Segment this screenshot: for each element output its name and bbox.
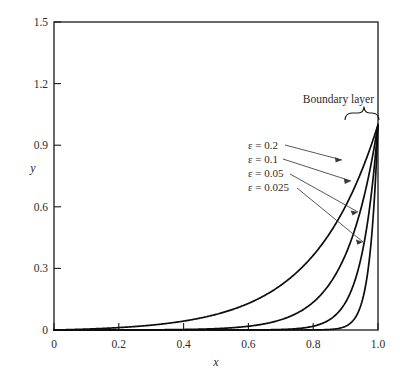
y-tick-label: 0.9 [34, 139, 49, 151]
curve-group [54, 125, 378, 330]
y-tick-label: 1.2 [34, 78, 49, 90]
x-axis-title: x [212, 355, 219, 369]
y-tick-label: 1.5 [34, 16, 49, 28]
curve-eps-0.1 [54, 125, 378, 330]
x-tick-label: 0.6 [241, 338, 256, 350]
x-tick-label: 0.4 [176, 338, 191, 350]
series-label-eps-0.1: ε = 0.1 [248, 153, 278, 165]
x-tick-label: 0.2 [112, 338, 127, 350]
x-tick-label: 0.8 [306, 338, 321, 350]
boundary-layer-label: Boundary layer [303, 93, 374, 106]
series-label-eps-0.05: ε = 0.05 [248, 167, 284, 179]
curve-eps-0.05 [54, 125, 378, 330]
y-tick-label: 0 [42, 324, 48, 336]
series-label-eps-0.2: ε = 0.2 [248, 139, 278, 151]
boundary-layer-brace [345, 107, 379, 121]
y-tick-label: 0.6 [34, 201, 49, 213]
curve-eps-0.025 [54, 125, 378, 330]
curve-eps-0.2 [54, 125, 378, 330]
x-tick-label: 0 [51, 338, 57, 350]
y-tick-label: 0.3 [34, 262, 49, 274]
series-label-eps-0.025: ε = 0.025 [248, 181, 290, 193]
x-tick-label: 1.0 [371, 338, 386, 350]
y-axis-title: y [29, 161, 36, 175]
y-axis-ticks [54, 22, 61, 330]
boundary-layer-chart: 1.5 1.2 0.9 0.6 0.3 0 0 0.2 0.4 0.6 0.8 … [0, 0, 400, 373]
